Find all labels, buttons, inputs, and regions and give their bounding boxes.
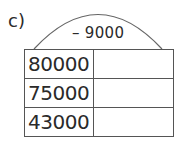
answer-cell[interactable] [94, 108, 174, 137]
value-cell: 43000 [25, 108, 94, 137]
table-row: 43000 [25, 108, 174, 137]
value-cell: 80000 [25, 50, 94, 79]
answer-cell[interactable] [94, 79, 174, 108]
number-table: 80000 75000 43000 [24, 49, 174, 137]
operation-label: – 9000 [72, 24, 124, 42]
answer-cell[interactable] [94, 50, 174, 79]
value-cell: 75000 [25, 79, 94, 108]
table-row: 75000 [25, 79, 174, 108]
table-row: 80000 [25, 50, 174, 79]
